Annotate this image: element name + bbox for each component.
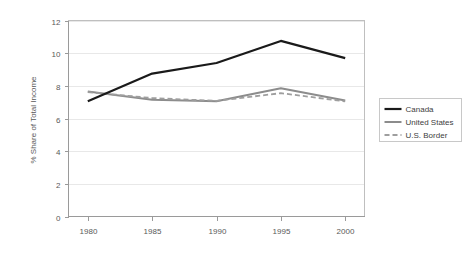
x-tick-label: 1985 [144, 227, 162, 236]
line-chart: 024681012 19801985199019952000 % Share o… [0, 0, 474, 256]
y-tick-label: 0 [56, 214, 61, 223]
legend-label-1: Canada [406, 105, 435, 114]
y-tick-label: 12 [52, 18, 61, 27]
x-tick-label: 1990 [209, 227, 227, 236]
x-tick-label: 2000 [337, 227, 355, 236]
chart-container: 024681012 19801985199019952000 % Share o… [0, 0, 474, 256]
chart-legend: CanadaUnited StatesU.S. Border [380, 99, 462, 142]
y-tick-label: 6 [56, 116, 61, 125]
y-tick-label: 2 [56, 181, 61, 190]
y-tick-label: 8 [56, 83, 61, 92]
legend-label-2: United States [406, 118, 454, 127]
x-tick-label: 1995 [273, 227, 291, 236]
y-tick-label: 10 [52, 50, 61, 59]
y-tick-label: 4 [56, 148, 61, 157]
y-axis-title: % Share of Total Income [29, 76, 38, 164]
x-tick-label: 1980 [80, 227, 98, 236]
legend-label-3: U.S. Border [406, 131, 448, 140]
